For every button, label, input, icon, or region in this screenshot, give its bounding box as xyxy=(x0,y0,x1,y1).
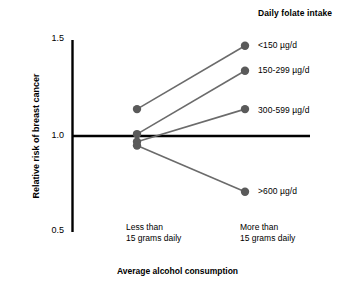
series-line-150-299-g-d xyxy=(137,71,245,134)
series-layer xyxy=(133,42,249,196)
data-point-300-599-g-d-more-than xyxy=(241,105,249,113)
series-line-gt600-g-d xyxy=(137,146,245,192)
series-gt600-g-d xyxy=(133,141,249,195)
chart-figure: Daily folate intake <150 µg/d 150-299 µg… xyxy=(0,0,355,287)
data-point-150-299-g-d-less-than xyxy=(133,130,141,138)
series-line-lt150-g-d xyxy=(137,46,245,109)
data-point-lt150-g-d-less-than xyxy=(133,105,141,113)
data-point-gt600-g-d-more-than xyxy=(241,187,249,195)
plot-area xyxy=(0,0,355,287)
data-point-150-299-g-d-more-than xyxy=(241,67,249,75)
data-point-gt600-g-d-less-than xyxy=(133,141,141,149)
data-point-lt150-g-d-more-than xyxy=(241,42,249,50)
